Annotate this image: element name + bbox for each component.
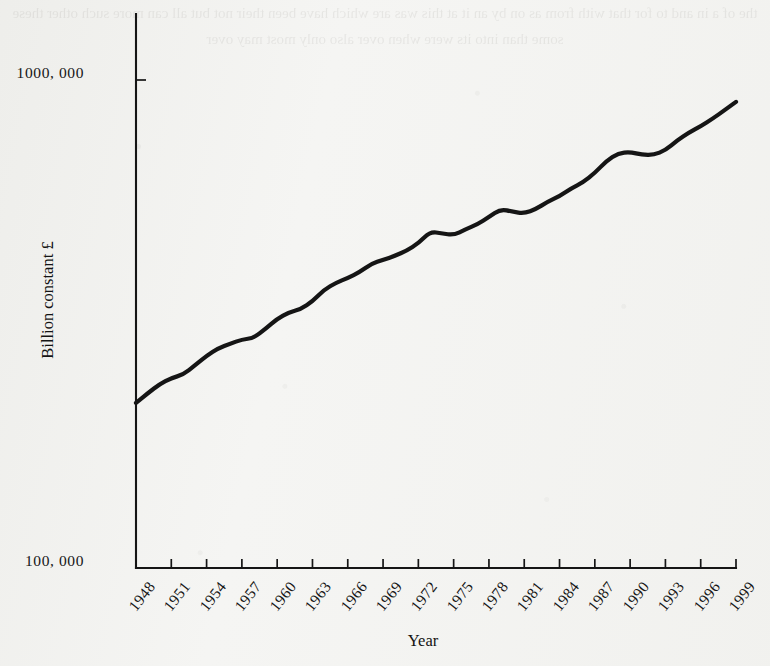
axis-lines: [136, 14, 736, 568]
chart-plot-area: [0, 0, 770, 666]
data-series-line: [136, 102, 736, 403]
x-axis-tick-marks: [136, 559, 736, 568]
line-chart-figure: 1000, 000 100, 000 Billion constant £ Ye…: [0, 0, 770, 666]
y-axis-tick-marks: [136, 80, 146, 568]
